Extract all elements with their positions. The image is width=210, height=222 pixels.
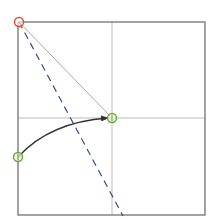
target-point[interactable] bbox=[108, 114, 117, 123]
start-point[interactable] bbox=[14, 153, 23, 162]
origin-point[interactable] bbox=[15, 18, 24, 27]
solid-diagonal-line bbox=[19, 22, 112, 118]
curved-arrow bbox=[18, 118, 108, 157]
diagram-canvas bbox=[0, 0, 210, 222]
